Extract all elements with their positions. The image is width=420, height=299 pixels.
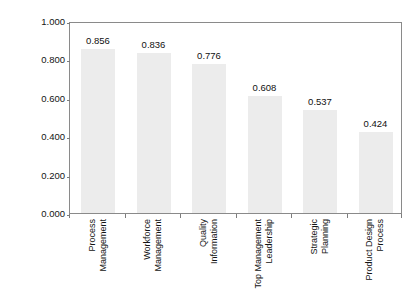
x-axis-tick-mark <box>236 214 237 218</box>
x-axis-category-label: WorkforceManagement <box>125 219 181 297</box>
bar-slot: 0.608 <box>237 23 293 213</box>
x-axis-category-label: Product DesignProcess <box>347 219 403 297</box>
y-axis-tick-label: 0.800 <box>22 55 65 65</box>
x-axis-tick-mark <box>401 214 402 218</box>
bar[interactable] <box>81 49 115 213</box>
bar-value-label: 0.856 <box>70 35 126 46</box>
x-axis-category-label: Top ManagementLeadership <box>236 219 292 297</box>
y-axis-tick-mark <box>67 100 70 101</box>
x-axis-category-label-line: Product Design <box>364 219 375 297</box>
x-axis-category-label-line: Management <box>152 219 163 297</box>
x-axis-category-label-line: Management <box>97 219 108 297</box>
bars-layer: 0.8560.8360.7760.6080.5370.424 <box>70 23 401 213</box>
bar-slot: 0.836 <box>126 23 182 213</box>
x-axis-category-label-line: Information <box>208 219 219 297</box>
x-axis-category-label-line: Process <box>374 219 385 297</box>
x-axis-category-label-line: Quality <box>197 219 208 297</box>
x-axis-category-labels: ProcessManagementWorkforceManagementQual… <box>69 219 402 299</box>
y-axis-tick-label: 0.600 <box>22 94 65 104</box>
x-axis-category-label-text: Product DesignProcess <box>364 219 385 297</box>
bar-value-label: 0.537 <box>292 96 348 107</box>
bar-chart-figure: Standardized coefficient 0.0000.2000.400… <box>0 0 420 299</box>
x-axis-category-label-text: QualityInformation <box>197 219 218 297</box>
x-axis-category-label-text: ProcessManagement <box>86 219 107 297</box>
x-axis-tick-mark <box>125 214 126 218</box>
x-axis-category-label-line: Strategic <box>308 219 319 297</box>
y-axis-tick-labels: 0.0000.2000.4000.6000.8001.000 <box>22 0 65 299</box>
x-axis-category-label-line: Top Management <box>253 219 264 297</box>
x-axis-category-label: StrategicPlanning <box>291 219 347 297</box>
bar[interactable] <box>137 53 171 214</box>
y-axis-tick-label: 0.400 <box>22 132 65 142</box>
x-axis-category-label: ProcessManagement <box>69 219 125 297</box>
bar-value-label: 0.836 <box>126 39 182 50</box>
x-axis-category-label-line: Leadership <box>263 219 274 297</box>
bar[interactable] <box>303 110 337 213</box>
x-axis-tick-mark <box>291 214 292 218</box>
bar[interactable] <box>192 64 226 213</box>
y-axis-tick-mark <box>67 23 70 24</box>
plot-area: 0.8560.8360.7760.6080.5370.424 <box>69 22 402 214</box>
x-axis-category-label-line: Planning <box>319 219 330 297</box>
x-axis-category-label-line: Workforce <box>142 219 153 297</box>
y-axis-tick-label: 1.000 <box>22 17 65 27</box>
y-axis-tick-label: 0.200 <box>22 171 65 181</box>
bar-slot: 0.776 <box>181 23 237 213</box>
y-axis-tick-label: 0.000 <box>22 209 65 219</box>
y-axis-tick-mark <box>67 138 70 139</box>
bar[interactable] <box>359 132 393 213</box>
bar-value-label: 0.424 <box>348 118 404 129</box>
x-axis-tick-mark <box>180 214 181 218</box>
x-axis-category-label-text: StrategicPlanning <box>308 219 329 297</box>
x-axis-category-label-text: WorkforceManagement <box>142 219 163 297</box>
x-axis-tick-mark <box>347 214 348 218</box>
x-axis-category-label-text: Top ManagementLeadership <box>253 219 274 297</box>
bar-slot: 0.856 <box>70 23 126 213</box>
bar-slot: 0.424 <box>348 23 404 213</box>
x-axis-tick-mark <box>69 214 70 218</box>
x-axis-category-label: QualityInformation <box>180 219 236 297</box>
bar-slot: 0.537 <box>292 23 348 213</box>
bar[interactable] <box>248 96 282 213</box>
bar-value-label: 0.776 <box>181 50 237 61</box>
y-axis-tick-mark <box>67 61 70 62</box>
x-axis-category-label-line: Process <box>86 219 97 297</box>
y-axis-tick-mark <box>67 177 70 178</box>
bar-value-label: 0.608 <box>237 82 293 93</box>
